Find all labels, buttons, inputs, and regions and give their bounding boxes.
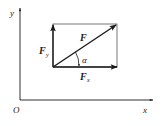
fx-label: F x	[79, 71, 90, 83]
origin-label: O	[13, 105, 20, 115]
svg-text:F: F	[79, 71, 87, 82]
fy-label: F y	[38, 45, 49, 58]
vector-diagram: y x O F F y F x α	[0, 0, 163, 126]
f-resultant-label: F	[79, 32, 87, 43]
svg-text:x: x	[86, 77, 90, 83]
y-axis-label: y	[9, 8, 14, 18]
angle-arc	[76, 52, 80, 66]
svg-text:F: F	[38, 45, 46, 56]
alpha-angle-label: α	[82, 55, 87, 65]
x-axis-label: x	[142, 105, 147, 115]
svg-text:y: y	[45, 52, 49, 58]
